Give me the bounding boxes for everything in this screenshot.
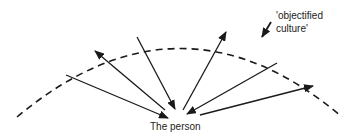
arrow-to-person-3	[137, 37, 175, 109]
arrows-group	[66, 32, 313, 118]
arrow-to-person-1	[66, 75, 168, 118]
arc-label-line-2: culture'	[276, 22, 323, 35]
label-pointer-arrow	[262, 22, 271, 37]
diagram-canvas: 'objectified culture' The person	[0, 0, 362, 137]
arc-label-line-1: 'objectified	[276, 9, 323, 22]
person-label: The person	[150, 120, 201, 133]
arrow-to-culture-4	[183, 32, 226, 110]
objectified-culture-arc	[17, 49, 342, 118]
arrow-to-culture-6	[200, 86, 313, 115]
arc-label: 'objectified culture'	[276, 9, 323, 35]
arrow-to-culture-2	[95, 51, 165, 110]
